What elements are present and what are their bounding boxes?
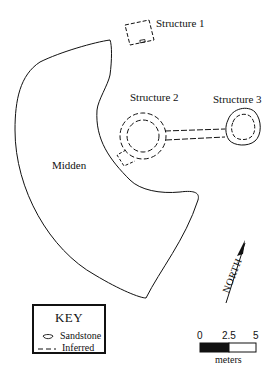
key-title: KEY [34,310,104,326]
structure-1-outline [125,20,154,45]
structure-2-label: Structure 2 [130,92,179,103]
structure-1-label: Structure 1 [156,18,205,29]
key-label-sandstone: Sandstone [60,330,101,341]
midden-outline [15,40,198,298]
key-label-inferred: Inferred [62,342,94,353]
passage-outline [165,129,225,140]
dashed-line-icon [38,344,56,352]
scale-tick-2-5: 2.5 [222,330,236,341]
midden-label: Midden [52,160,86,171]
structure-2-outline [117,113,166,166]
structure-3-label: Structure 3 [213,94,262,105]
key-item-inferred: Inferred [38,342,94,353]
scale-tick-0: 0 [197,330,203,341]
key-item-sandstone: Sandstone [42,330,101,341]
scale-bar [200,343,256,352]
structure-3-outline [226,108,260,145]
sandstone-icon [42,332,54,340]
map-key: KEY Sandstone Inferred [32,304,106,354]
scale-tick-5: 5 [253,330,259,341]
scale-unit: meters [215,355,242,365]
